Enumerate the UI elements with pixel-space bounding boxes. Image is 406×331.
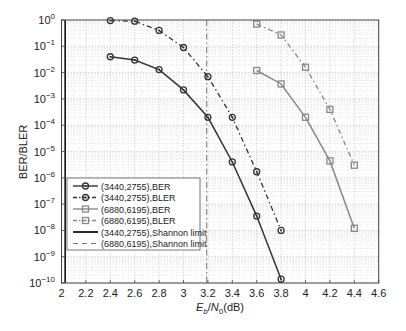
y-axis-label: BER/BLER [17,125,29,179]
y-tick-label: 10−3 [34,91,56,105]
y-tick-label: 10−5 [34,144,56,158]
data-point-marker-dot [183,47,185,49]
ber-bler-chart: 22.22.42.62.833.23.43.63.844.24.44.6 100… [0,0,406,331]
y-axis-ticks: 10010−110−210−310−410−510−610−710−810−91… [29,12,64,289]
legend-label: (3440,2755),BER [101,182,171,192]
x-tick-label: 3.4 [225,287,240,299]
x-tick-label: 3.8 [273,287,288,299]
legend-marker-dot [85,185,87,187]
y-tick-label: 10−2 [34,65,56,79]
data-point-marker-dot [231,116,233,118]
x-tick-label: 3.2 [200,287,215,299]
y-tick-label: 10−9 [34,249,56,263]
y-tick-label: 10−8 [34,222,56,236]
y-tick-label: 10−1 [34,38,56,52]
data-point-marker-dot [256,215,258,217]
legend: (3440,2755),BER(3440,2755),BLER(6880,619… [67,178,207,250]
data-point-marker-dot [158,29,160,31]
x-tick-label: 2.4 [103,287,118,299]
x-tick-label: 4.2 [322,287,337,299]
data-point-marker-dot [207,76,209,78]
legend-label: (3440,2755),Shannon limit [101,228,207,238]
data-point-marker-dot [134,20,136,22]
x-tick-label: 3 [180,287,186,299]
data-point-marker-dot [109,56,111,58]
x-tick-label: 4.4 [347,287,362,299]
data-point-marker-dot [280,229,282,231]
legend-marker-dot [85,197,87,199]
y-tick-label: 10−6 [34,170,56,184]
x-tick-label: 2.8 [151,287,166,299]
legend-label: (6880,6195),BER [101,205,171,215]
y-tick-label: 10−10 [29,275,55,289]
data-point-marker-dot [207,116,209,118]
data-point-marker-dot [158,69,160,71]
legend-label: (6880,6195),BLER [101,216,176,226]
data-point-marker-dot [280,278,282,280]
y-tick-label: 10−4 [34,117,56,131]
data-point-marker-dot [134,59,136,61]
data-point-marker-dot [183,89,185,91]
x-tick-label: 4.6 [371,287,386,299]
x-tick-label: 4 [302,287,308,299]
legend-label: (6880,6195),Shannon limit [101,239,207,249]
y-tick-label: 10−7 [34,196,56,210]
y-tick-label: 100 [38,12,55,26]
data-point-marker-dot [256,171,258,173]
data-point-marker-dot [231,161,233,163]
legend-label: (3440,2755),BLER [101,193,176,203]
x-axis-label: Eb/N0(dB) [196,301,244,316]
x-tick-label: 3.6 [249,287,264,299]
x-tick-label: 2.2 [78,287,93,299]
x-tick-label: 2 [58,287,64,299]
x-tick-label: 2.6 [127,287,142,299]
